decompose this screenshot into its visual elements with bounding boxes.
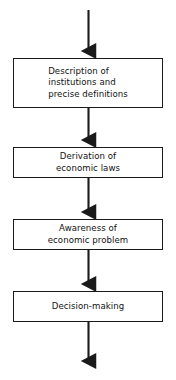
- flow-node-label: Decision-making: [52, 301, 124, 312]
- flow-node-decision-making: Decision-making: [13, 291, 163, 322]
- flow-node-label: Awareness of economic problem: [48, 223, 129, 246]
- flow-node-label: Description of institutions and precise …: [48, 66, 128, 100]
- flowchart-diagram: Description of institutions and precise …: [0, 0, 176, 380]
- flow-node-description-of-institutions: Description of institutions and precise …: [13, 58, 163, 108]
- flow-node-derivation-of-economic-laws: Derivation of economic laws: [13, 147, 163, 178]
- flow-node-awareness-of-economic-problem: Awareness of economic problem: [13, 219, 163, 250]
- flow-connectors-layer: [0, 0, 176, 380]
- flow-node-label: Derivation of economic laws: [56, 151, 120, 174]
